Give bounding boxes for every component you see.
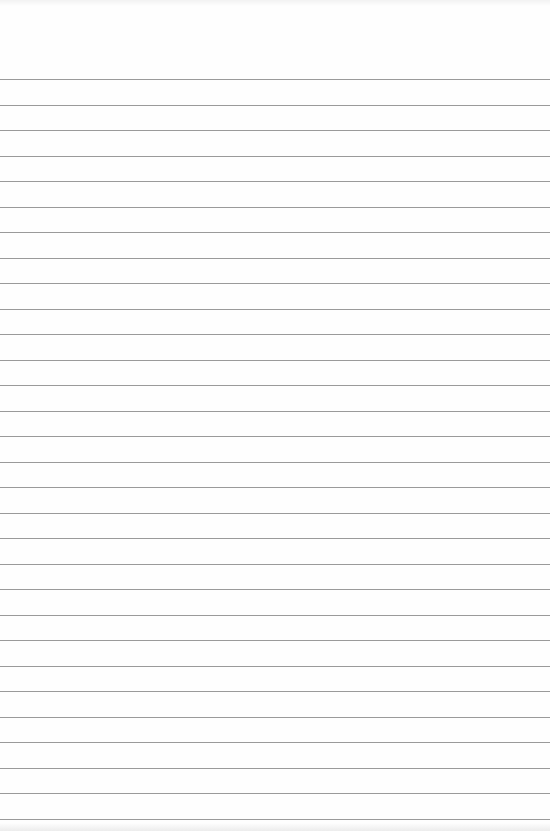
- ruled-line: [0, 411, 550, 412]
- ruled-line: [0, 130, 550, 131]
- ruled-line: [0, 156, 550, 157]
- ruled-line: [0, 207, 550, 208]
- ruled-line: [0, 79, 550, 80]
- ruled-line: [0, 232, 550, 233]
- ruled-line: [0, 717, 550, 718]
- ruled-line: [0, 538, 550, 539]
- ruled-line: [0, 385, 550, 386]
- ruled-line: [0, 283, 550, 284]
- bottom-edge-shadow: [0, 823, 550, 831]
- ruled-line: [0, 258, 550, 259]
- ruled-line: [0, 487, 550, 488]
- ruled-line: [0, 436, 550, 437]
- ruled-line: [0, 309, 550, 310]
- ruled-line: [0, 819, 550, 820]
- ruled-line: [0, 334, 550, 335]
- ruled-line: [0, 666, 550, 667]
- top-edge-shadow: [0, 0, 550, 6]
- ruled-line: [0, 181, 550, 182]
- ruled-line: [0, 360, 550, 361]
- ruled-line: [0, 564, 550, 565]
- ruled-line: [0, 513, 550, 514]
- ruled-line: [0, 589, 550, 590]
- ruled-line: [0, 105, 550, 106]
- ruled-line: [0, 793, 550, 794]
- ruled-line: [0, 768, 550, 769]
- ruled-line: [0, 462, 550, 463]
- ruled-line: [0, 640, 550, 641]
- ruled-line: [0, 691, 550, 692]
- ruled-line: [0, 615, 550, 616]
- ruled-line: [0, 742, 550, 743]
- lined-paper-sheet: [0, 0, 550, 831]
